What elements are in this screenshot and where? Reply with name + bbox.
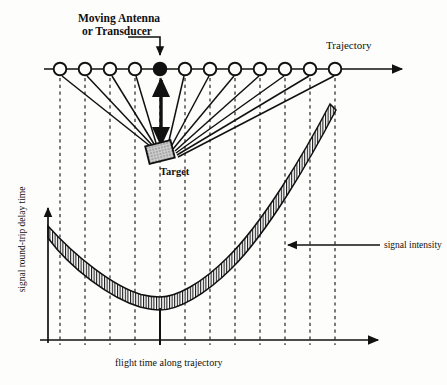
moving-antenna-label-line1: Moving Antenna bbox=[78, 12, 160, 24]
radar-trajectory-diagram bbox=[0, 0, 447, 385]
signal-ray-fan bbox=[62, 76, 334, 157]
y-axis-label: signal round-trip delay time bbox=[17, 169, 28, 309]
antenna-callout-arrow bbox=[128, 37, 160, 55]
target-label: Target bbox=[160, 166, 189, 178]
trajectory-label: Trajectory bbox=[326, 39, 371, 52]
moving-antenna-label: Moving Antenna or Transducer bbox=[78, 12, 160, 38]
signal-intensity-label: signal intensity bbox=[384, 240, 442, 251]
target-marker bbox=[145, 140, 175, 164]
dashed-grid-lines bbox=[60, 78, 335, 345]
moving-antenna-label-line2: or Transducer bbox=[78, 25, 160, 38]
x-axis-label: flight time along trajectory bbox=[115, 357, 222, 369]
